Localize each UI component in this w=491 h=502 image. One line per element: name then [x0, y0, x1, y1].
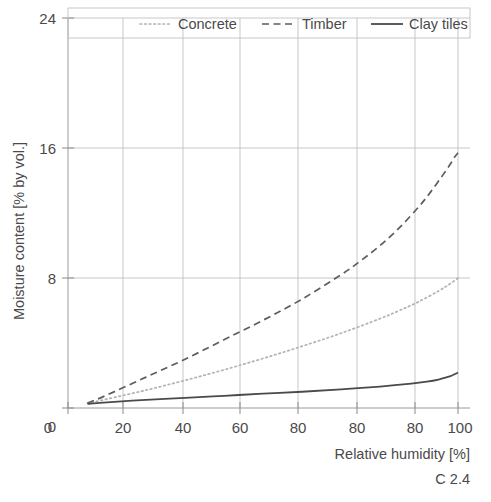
x-tick-label-80c: 80 — [407, 419, 424, 436]
moisture-humidity-line-chart: 24 16 8 0 0 20 40 60 80 80 80 100 Moistu… — [0, 0, 491, 502]
x-tick-label-60: 60 — [232, 419, 249, 436]
gridlines — [68, 18, 470, 408]
x-axis-title: Relative humidity [%] — [335, 446, 470, 462]
data-series-group — [88, 153, 459, 404]
figure-caption: C 2.4 — [435, 471, 470, 487]
chart-figure: 24 16 8 0 0 20 40 60 80 80 80 100 Moistu… — [0, 0, 491, 502]
y-tick-label-16: 16 — [39, 140, 56, 157]
legend-label-concrete: Concrete — [178, 16, 237, 32]
y-tick-labels: 24 16 8 0 — [39, 10, 56, 435]
x-tick-label-40: 40 — [175, 419, 192, 436]
plot-axes — [68, 18, 470, 408]
x-tick-label-20: 20 — [115, 419, 132, 436]
x-tick-label-100: 100 — [447, 419, 472, 436]
legend-label-timber: Timber — [302, 16, 347, 32]
x-tick-label-0: 0 — [44, 419, 52, 436]
chart-legend: Concrete Timber Clay tiles — [68, 8, 470, 38]
x-tick-label-80a: 80 — [290, 419, 307, 436]
legend-label-clay: Clay tiles — [409, 16, 468, 32]
x-tick-labels: 0 20 40 60 80 80 80 100 — [44, 419, 473, 436]
tick-marks — [62, 18, 458, 414]
y-axis-title: Moisture content [% by vol.] — [11, 142, 27, 320]
y-tick-label-24: 24 — [39, 10, 56, 27]
x-tick-label-80b: 80 — [349, 419, 366, 436]
y-tick-label-8: 8 — [48, 270, 56, 287]
series-line-clay — [88, 373, 459, 404]
